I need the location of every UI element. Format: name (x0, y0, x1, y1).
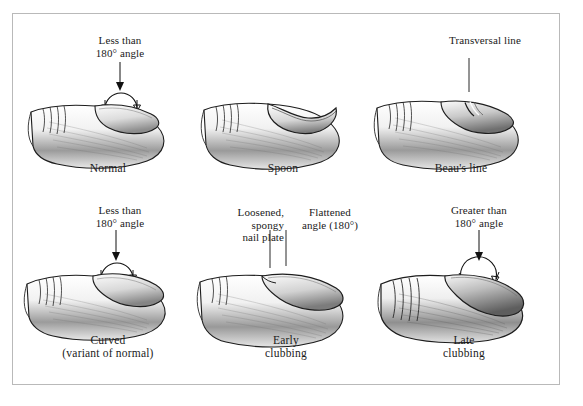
caption-curved: Curved (variant of normal) (23, 334, 193, 360)
annotation-leader-normal (116, 62, 124, 91)
caption-line-1: Late (379, 334, 549, 347)
annotation-line-2: 180° angle (423, 217, 535, 230)
annotation-angle-late: Greater than 180° angle (423, 204, 535, 229)
panel-early-clubbing: Loosened, spongy nail plate Flattened an… (198, 194, 374, 374)
caption-spoon: Spoon (198, 162, 368, 175)
caption-early-clubbing: Early clubbing (198, 334, 374, 360)
annotation-line-2: spongy (200, 219, 284, 232)
caption-line-2: clubbing (198, 347, 374, 360)
annotation-flattened-angle: Flattened angle (180°) (286, 206, 374, 231)
annotation-line-2: angle (180°) (286, 219, 374, 232)
annotation-line-1: Flattened (286, 206, 374, 219)
annotation-leader-curved (112, 230, 120, 261)
annotation-angle-normal: Less than 180° angle (75, 34, 165, 59)
panel-normal: Less than 180° angle (23, 22, 193, 182)
annotation-line-2: 180° angle (75, 217, 165, 230)
panel-late-clubbing: Greater than 180° angle (379, 194, 549, 374)
caption-normal: Normal (23, 162, 193, 175)
panel-curved: Less than 180° angle (23, 194, 193, 374)
annotation-line-2: 180° angle (75, 47, 165, 60)
caption-line-2: (variant of normal) (23, 347, 193, 360)
annotation-line-1: Less than (75, 34, 165, 47)
annotation-line-1: Loosened, (200, 206, 284, 219)
annotation-line-1: Transversal line (425, 34, 545, 47)
figure-frame: Less than 180° angle (12, 13, 560, 385)
caption-line-2: clubbing (379, 347, 549, 360)
annotation-line-1: Greater than (423, 204, 535, 217)
caption-line-1: Curved (23, 334, 193, 347)
panel-spoon: Spoon (198, 22, 368, 182)
caption-line-1: Early (198, 334, 374, 347)
annotation-angle-curved: Less than 180° angle (75, 204, 165, 229)
caption-beaus-line: Beau's line (373, 162, 549, 175)
annotation-transversal-line: Transversal line (425, 34, 545, 47)
caption-late-clubbing: Late clubbing (379, 334, 549, 360)
annotation-nail-plate: Loosened, spongy nail plate (200, 206, 284, 244)
annotation-line-1: Less than (75, 204, 165, 217)
panel-beaus-line: Transversal line (373, 22, 549, 182)
